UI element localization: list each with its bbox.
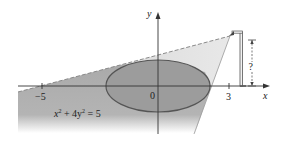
lamp-head-icon [229,31,234,36]
x-axis-arrow-icon [263,84,270,89]
y-axis-label: y [146,8,152,19]
height-dimension: ? [248,40,256,86]
x-axis-label: x [262,90,268,101]
origin-label: 0 [150,90,155,101]
y-axis-arrow-icon [156,12,161,19]
height-unknown-label: ? [249,61,254,72]
ellipse-lamp-diagram: −5 3 0 x y x2 + 4y2 = 5 ? [0,0,281,147]
tick-label-neg5: −5 [35,91,46,102]
lamppost [229,31,246,86]
tick-label-3: 3 [226,91,231,102]
